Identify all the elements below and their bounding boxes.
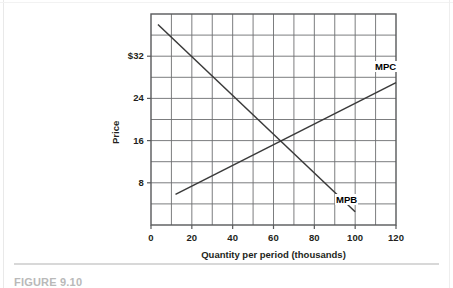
x-tick-label: 20	[186, 232, 197, 243]
x-tick-label: 80	[309, 232, 320, 243]
x-tick-label: 120	[388, 232, 404, 243]
caption-divider	[14, 263, 439, 265]
y-tick-label: 16	[133, 135, 144, 146]
series-label-mpb: MPB	[335, 194, 358, 205]
figure-caption: FIGURE 9.10	[14, 276, 82, 288]
y-axis-title: Price	[110, 121, 121, 144]
chart-plot-area: 81624$32 020406080100120 Price Quantity …	[0, 0, 453, 255]
series-label-mpc: MPC	[374, 61, 397, 72]
y-tick-label: 24	[133, 92, 144, 103]
x-axis-title: Quantity per period (thousands)	[201, 249, 346, 260]
x-tick-label: 40	[227, 232, 238, 243]
y-tick-label: $32	[128, 50, 144, 61]
y-tick-label: 8	[139, 177, 144, 188]
x-tick-label: 0	[148, 232, 153, 243]
series-lines	[158, 25, 396, 212]
x-tick-label: 100	[347, 232, 363, 243]
figure-card: 81624$32 020406080100120 Price Quantity …	[0, 0, 453, 288]
chart-svg	[0, 0, 453, 255]
x-tick-label: 60	[268, 232, 279, 243]
